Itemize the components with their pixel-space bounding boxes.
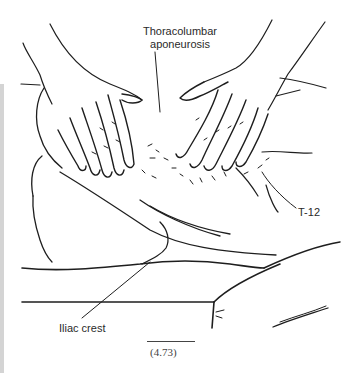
figure-number-rule bbox=[147, 341, 195, 342]
label-t12: T-12 bbox=[298, 206, 320, 219]
leader-lines bbox=[82, 52, 296, 318]
iliac-crest-leader bbox=[82, 262, 150, 318]
figure-number: (4.73) bbox=[150, 346, 177, 358]
thoracolumbar-leader bbox=[155, 52, 160, 112]
left-arm bbox=[21, 24, 142, 104]
label-thoracolumbar-line2: aponeurosis bbox=[143, 38, 217, 51]
iliac-crest-curve bbox=[142, 222, 168, 264]
right-arm bbox=[204, 20, 326, 110]
label-iliac-crest: Iliac crest bbox=[59, 322, 105, 335]
left-hand bbox=[58, 94, 142, 177]
fascia-texture bbox=[142, 144, 269, 184]
right-hand bbox=[176, 82, 268, 171]
table-edge bbox=[22, 242, 340, 328]
label-thoracolumbar-aponeurosis: Thoracolumbar aponeurosis bbox=[143, 25, 217, 51]
torso-contour bbox=[32, 88, 276, 262]
anatomical-illustration bbox=[0, 0, 345, 373]
label-thoracolumbar-line1: Thoracolumbar bbox=[143, 25, 217, 38]
lower-limb bbox=[273, 306, 328, 327]
